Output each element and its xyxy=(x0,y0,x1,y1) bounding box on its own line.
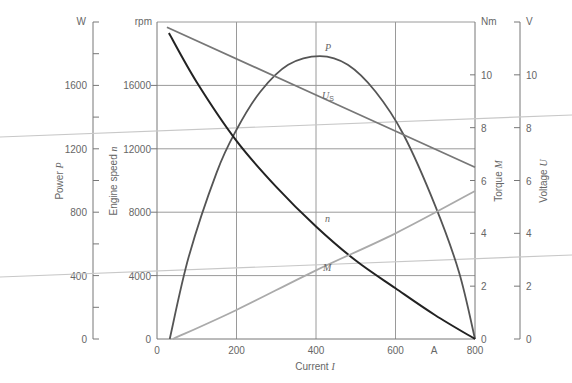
power-tick-label: 400 xyxy=(70,271,87,282)
power-tick-label: 1600 xyxy=(65,80,88,91)
motor-characteristics-chart: 0400800120016000400080001200016000020040… xyxy=(0,0,572,383)
power-tick-label: 800 xyxy=(70,207,87,218)
unit-nm: Nm xyxy=(481,16,497,27)
unit-w: W xyxy=(77,16,87,27)
speed-tick-label: 12000 xyxy=(123,144,151,155)
curve-label-us: US xyxy=(322,90,334,102)
curve-label-n: n xyxy=(325,213,330,224)
series-us-curve xyxy=(167,27,475,167)
power-tick-label: 1200 xyxy=(65,144,88,155)
x-tick-label: 400 xyxy=(308,345,325,356)
voltage-tick-label: 0 xyxy=(526,334,532,345)
series-n-curve xyxy=(169,33,475,339)
unit-v: V xyxy=(526,16,533,27)
power-tick-label: 0 xyxy=(81,334,87,345)
voltage-axis-title: Voltage U xyxy=(538,159,549,203)
power-axis-title: Power P xyxy=(54,162,65,199)
speed-tick-label: 16000 xyxy=(123,80,151,91)
x-tick-label: 200 xyxy=(228,345,245,356)
voltage-tick-label: 10 xyxy=(526,70,538,81)
unit-rpm: rpm xyxy=(135,16,152,27)
x-tick-label: 800 xyxy=(467,345,484,356)
voltage-tick-label: 4 xyxy=(526,228,532,239)
speed-tick-label: 0 xyxy=(145,334,151,345)
voltage-tick-label: 8 xyxy=(526,123,532,134)
x-tick-label: 0 xyxy=(154,345,160,356)
axes xyxy=(93,22,520,339)
unit-a: A xyxy=(431,345,438,356)
grid xyxy=(157,22,475,339)
torque-tick-label: 2 xyxy=(481,281,487,292)
torque-tick-label: 8 xyxy=(481,123,487,134)
voltage-tick-label: 6 xyxy=(526,176,532,187)
curve-label-m: M xyxy=(322,262,332,273)
overlay-line xyxy=(0,255,572,277)
torque-axis-title: Torque M xyxy=(493,159,504,201)
series xyxy=(167,27,475,339)
torque-tick-label: 6 xyxy=(481,176,487,187)
torque-tick-label: 4 xyxy=(481,228,487,239)
voltage-tick-label: 2 xyxy=(526,281,532,292)
curve-label-p: P xyxy=(324,42,331,53)
x-axis-title: Current I xyxy=(295,361,335,372)
x-tick-label: 600 xyxy=(387,345,404,356)
torque-tick-label: 0 xyxy=(481,334,487,345)
speed-axis-title: Engine speed n xyxy=(108,147,119,216)
torque-tick-label: 10 xyxy=(481,70,493,81)
speed-tick-label: 8000 xyxy=(129,207,152,218)
